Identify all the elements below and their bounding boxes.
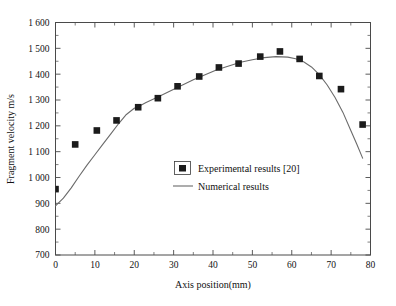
data-point-marker [296, 56, 303, 63]
data-point-marker [277, 48, 284, 55]
x-tick-label: 80 [366, 260, 376, 270]
data-point-marker [316, 73, 323, 80]
legend-square-marker-icon [179, 165, 186, 172]
x-tick-label: 40 [208, 260, 218, 270]
data-point-marker [359, 121, 366, 128]
y-axis-title: Fragment velocity m/s [5, 94, 16, 184]
y-tick-label: 1 100 [28, 147, 50, 157]
y-axis-minor-ticks [56, 35, 371, 242]
chart-legend: Experimental results [20] Numerical resu… [173, 162, 300, 193]
y-tick-label: 1 500 [28, 44, 50, 54]
data-point-marker [94, 127, 101, 134]
y-tick-label: 1 400 [28, 70, 50, 80]
x-axis-minor-ticks [75, 23, 351, 256]
data-point-marker [216, 64, 223, 71]
data-point-marker [174, 83, 181, 90]
data-point-marker [135, 104, 142, 111]
x-axis-tick-labels: 01020304050607080 [53, 260, 375, 270]
y-tick-label: 1 200 [28, 121, 50, 131]
y-tick-label: 1 600 [28, 18, 50, 28]
data-point-marker [56, 186, 59, 193]
chart-figure: 01020304050607080 7008009001 0001 1001 2… [0, 0, 396, 306]
y-tick-label: 700 [35, 250, 50, 260]
y-axis-major-ticks [56, 23, 371, 256]
x-tick-label: 0 [53, 260, 58, 270]
data-point-marker [257, 53, 264, 60]
legend-label-experimental: Experimental results [20] [198, 163, 300, 174]
y-axis-tick-labels: 7008009001 0001 1001 2001 3001 4001 5001… [28, 18, 50, 261]
y-tick-label: 800 [35, 225, 50, 235]
data-point-marker [235, 60, 242, 67]
x-axis-major-ticks [56, 23, 371, 256]
x-tick-label: 10 [90, 260, 100, 270]
plot-area-frame [56, 23, 371, 256]
x-tick-label: 70 [326, 260, 336, 270]
x-tick-label: 20 [130, 260, 140, 270]
data-point-marker [338, 86, 345, 93]
data-point-marker [196, 73, 203, 80]
x-axis-title: Axis position(mm) [175, 279, 251, 291]
y-tick-label: 1 000 [28, 173, 50, 183]
legend-label-numerical: Numerical results [198, 181, 269, 192]
data-point-marker [155, 95, 162, 102]
x-tick-label: 60 [287, 260, 297, 270]
y-tick-label: 1 300 [28, 95, 50, 105]
x-tick-label: 30 [169, 260, 179, 270]
y-tick-label: 900 [35, 199, 50, 209]
data-point-marker [72, 141, 79, 148]
x-tick-label: 50 [248, 260, 258, 270]
fragment-velocity-chart: 01020304050607080 7008009001 0001 1001 2… [0, 0, 396, 306]
data-point-marker [113, 117, 120, 124]
